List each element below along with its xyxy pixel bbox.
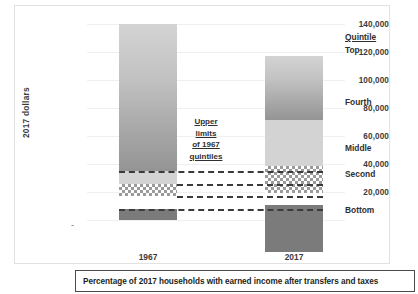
bar-1967[interactable] — [119, 24, 177, 220]
annotation-line-4: quintiles — [175, 151, 237, 163]
legend-item-second[interactable]: Second — [345, 169, 375, 179]
legend: Quintile Top Fourth Middle Second Bottom — [345, 24, 415, 246]
bar-1967-segment-top[interactable] — [119, 24, 177, 171]
annotation-upper-limits: Upper limits of 1967 quintiles — [175, 116, 237, 162]
legend-item-middle[interactable]: Middle — [345, 143, 372, 153]
bar-2017-segment-fourth[interactable] — [265, 120, 323, 166]
connector-quintile-4 — [119, 171, 323, 173]
bar-1967-segment-middle[interactable] — [119, 184, 177, 196]
connector-quintile-1 — [119, 209, 323, 211]
bar-2017-segment-second[interactable] — [265, 193, 323, 205]
legend-item-bottom[interactable]: Bottom — [345, 205, 374, 215]
caption-box: Percentage of 2017 households with earne… — [75, 270, 415, 292]
connector-quintile-2 — [177, 196, 323, 198]
bar-2017-segment-bottom[interactable] — [265, 205, 323, 252]
plot-area: 1967 2017 — [87, 24, 387, 246]
x-label-1967: 1967 — [103, 252, 193, 262]
legend-header: Quintile — [345, 32, 376, 42]
bar-1967-segment-second[interactable] — [119, 196, 177, 209]
x-label-2017: 2017 — [249, 252, 339, 262]
annotation-line-3: of 1967 — [175, 139, 237, 151]
bar-2017-segment-top[interactable] — [265, 56, 323, 120]
chart-frame: 2017 dollars 140,000 120,000 100,000 80,… — [14, 5, 390, 264]
annotation-line-1: Upper — [175, 116, 237, 128]
legend-item-fourth[interactable]: Fourth — [345, 97, 372, 107]
annotation-line-2: limits — [175, 128, 237, 140]
y-axis-title: 2017 dollars — [21, 87, 31, 138]
y-tick-zero: - — [71, 220, 74, 230]
connector-quintile-3 — [177, 184, 323, 186]
caption-text: Percentage of 2017 households with earne… — [76, 277, 378, 286]
legend-item-top[interactable]: Top — [345, 45, 360, 55]
